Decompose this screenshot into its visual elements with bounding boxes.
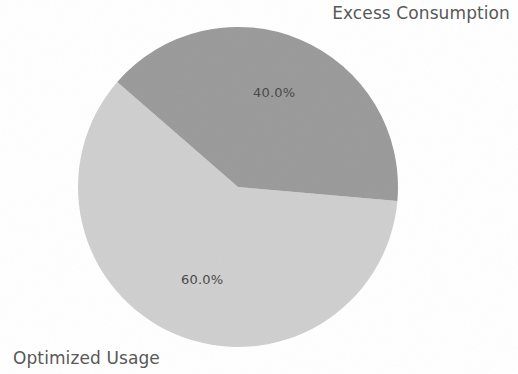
pie-percent-label-optimized-usage: 60.0% (181, 272, 223, 287)
pie-category-label-optimized-usage: Optimized Usage (13, 348, 160, 368)
pie-chart-figure: Excess Consumption Optimized Usage 40.0%… (0, 0, 518, 374)
pie-percent-label-excess-consumption: 40.0% (253, 85, 295, 100)
pie-chart-canvas (0, 0, 518, 374)
pie-category-label-excess-consumption: Excess Consumption (332, 3, 510, 23)
